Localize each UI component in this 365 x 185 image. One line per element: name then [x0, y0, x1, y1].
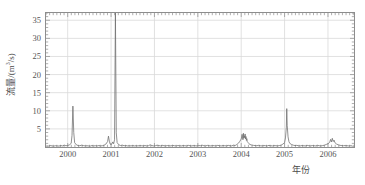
y-tick-label: 5 [18, 125, 44, 134]
x-tick-label: 2005 [276, 150, 293, 159]
y-axis-label-text: 流量/(m [6, 65, 16, 96]
x-axis-label: 年份 [292, 166, 310, 175]
x-tick-label: 2003 [189, 150, 206, 159]
x-tick-label: 2001 [103, 150, 120, 159]
y-axis-label: 流量/(m3/s) [0, 0, 20, 148]
y-tick-label: 25 [18, 52, 44, 61]
discharge-time-series-chart: 流量/(m3/s) 5101520253035 2000200120022003… [0, 0, 365, 185]
plot-area [45, 12, 355, 148]
x-tick-label: 2000 [59, 150, 76, 159]
x-axis-tick-labels: 2000200120022003200420052006 [45, 150, 355, 164]
y-axis-tick-labels: 5101520253035 [18, 0, 44, 185]
y-tick-label: 35 [18, 16, 44, 25]
x-tick-label: 2004 [233, 150, 250, 159]
series-canvas [46, 13, 354, 147]
y-axis-label-tail: /s) [6, 53, 16, 62]
y-tick-label: 10 [18, 107, 44, 116]
y-tick-label: 30 [18, 34, 44, 43]
y-tick-label: 20 [18, 70, 44, 79]
y-tick-label: 15 [18, 88, 44, 97]
x-tick-label: 2006 [319, 150, 336, 159]
x-tick-label: 2002 [146, 150, 163, 159]
